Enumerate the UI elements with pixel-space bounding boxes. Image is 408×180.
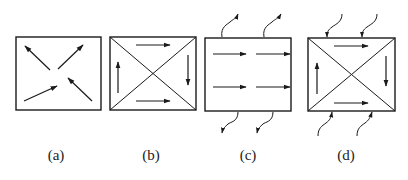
- panel-label-c: (c): [240, 147, 257, 164]
- panel-label-b: (b): [142, 147, 160, 164]
- wavy-arrow-out-icon: [257, 112, 273, 133]
- panel-c: [205, 14, 291, 133]
- arrow-icon: [68, 78, 92, 101]
- arrow-icon: [25, 46, 50, 70]
- panel-d: [308, 14, 395, 136]
- wavy-arrow-out-icon: [222, 112, 238, 133]
- panel-b: [110, 37, 196, 110]
- wavy-arrow-in-icon: [357, 112, 372, 136]
- panel-box: [205, 38, 291, 111]
- wavy-arrow-out-icon: [264, 14, 281, 37]
- panel-label-a: (a): [48, 147, 65, 164]
- wavy-arrow-in-icon: [327, 14, 342, 37]
- panel-label-d: (d): [337, 147, 355, 164]
- figure-canvas: (a)(b)(c)(d): [0, 0, 408, 180]
- panel-a: [16, 37, 101, 110]
- wavy-arrow-out-icon: [222, 14, 238, 37]
- wavy-arrow-in-icon: [362, 14, 377, 37]
- wavy-arrow-in-icon: [318, 112, 332, 136]
- arrow-icon: [24, 86, 57, 101]
- arrow-icon: [58, 45, 83, 69]
